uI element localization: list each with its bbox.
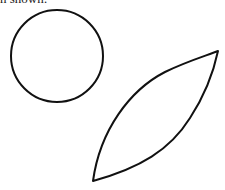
leaf-shape [93,51,218,181]
figure [0,0,225,190]
circle-shape [11,10,103,102]
